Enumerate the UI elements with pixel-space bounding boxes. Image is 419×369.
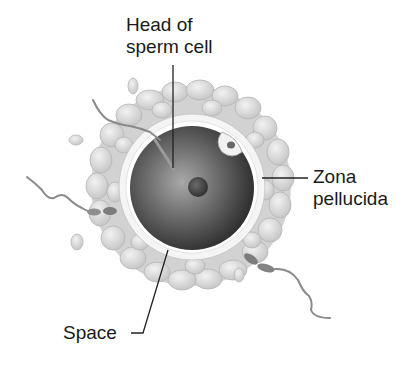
nucleus — [188, 177, 208, 197]
zona-pellucida-label-line1: Zona — [313, 166, 388, 188]
space-label: Space — [63, 322, 117, 344]
zona-pellucida-label-line2: pellucida — [313, 188, 388, 210]
head-of-sperm-label-line2: sperm cell — [126, 36, 213, 58]
head-of-sperm-label: Head of sperm cell — [126, 14, 213, 58]
zona-pellucida-label: Zona pellucida — [313, 166, 388, 210]
head-of-sperm-label-line1: Head of — [126, 14, 213, 36]
